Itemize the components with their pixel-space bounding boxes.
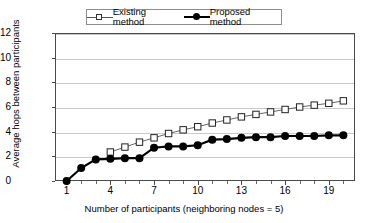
data-point-open-square bbox=[326, 100, 332, 106]
series-layer bbox=[0, 0, 368, 223]
data-point-filled-circle bbox=[281, 132, 289, 140]
data-point-filled-circle bbox=[339, 131, 347, 139]
data-point-open-square bbox=[296, 104, 302, 110]
data-point-filled-circle bbox=[150, 144, 158, 152]
data-point-open-square bbox=[267, 109, 273, 115]
data-point-filled-circle bbox=[92, 155, 100, 163]
data-point-open-square bbox=[136, 139, 142, 145]
data-point-filled-circle bbox=[77, 164, 85, 172]
data-point-filled-circle bbox=[208, 136, 216, 144]
data-point-filled-circle bbox=[252, 133, 260, 141]
data-point-filled-circle bbox=[121, 154, 129, 162]
data-point-filled-circle bbox=[223, 135, 231, 143]
data-point-open-square bbox=[253, 111, 259, 117]
data-point-filled-circle bbox=[325, 131, 333, 139]
data-point-filled-circle bbox=[237, 134, 245, 142]
data-point-filled-circle bbox=[135, 154, 143, 162]
data-point-open-square bbox=[311, 102, 317, 108]
series-proposed-method bbox=[63, 131, 348, 185]
data-point-filled-circle bbox=[310, 132, 318, 140]
data-point-open-square bbox=[209, 120, 215, 126]
data-point-filled-circle bbox=[267, 133, 275, 141]
data-point-open-square bbox=[107, 149, 113, 155]
data-point-filled-circle bbox=[165, 142, 173, 150]
data-point-open-square bbox=[122, 144, 128, 150]
data-point-filled-circle bbox=[63, 177, 71, 185]
data-point-open-square bbox=[340, 98, 346, 104]
data-point-open-square bbox=[238, 114, 244, 120]
data-point-open-square bbox=[165, 130, 171, 136]
data-point-open-square bbox=[224, 117, 230, 123]
data-point-filled-circle bbox=[179, 142, 187, 150]
data-point-open-square bbox=[180, 127, 186, 133]
chart-figure: Existing method Proposed method Average … bbox=[0, 0, 368, 223]
data-point-open-square bbox=[195, 124, 201, 130]
data-point-filled-circle bbox=[106, 155, 114, 163]
data-point-open-square bbox=[151, 135, 157, 141]
data-point-filled-circle bbox=[296, 132, 304, 140]
series-line bbox=[110, 101, 343, 152]
series-existing-method bbox=[107, 98, 346, 156]
data-point-filled-circle bbox=[194, 141, 202, 149]
data-point-open-square bbox=[282, 106, 288, 112]
